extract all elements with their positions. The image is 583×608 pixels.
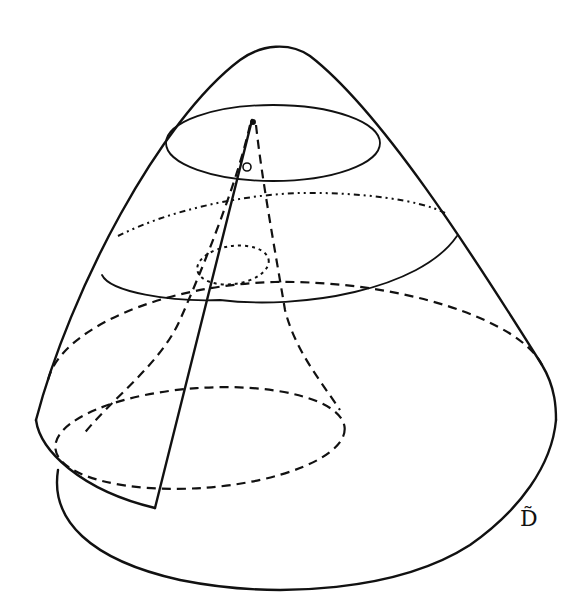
base-outline-lower bbox=[57, 420, 556, 590]
top-cross-section bbox=[166, 105, 380, 181]
lower-cross-section bbox=[48, 282, 542, 380]
base-outline bbox=[36, 420, 155, 508]
middle-cross-section-front bbox=[102, 236, 457, 302]
outer-surface bbox=[36, 47, 556, 420]
cut-sheet bbox=[155, 120, 252, 508]
apex-point bbox=[250, 119, 256, 125]
surface-label: D̃ bbox=[520, 508, 538, 530]
inner-funnel-right bbox=[256, 125, 340, 410]
inner-funnel-left bbox=[83, 125, 250, 435]
inner-base-ellipse bbox=[52, 378, 348, 498]
cone-diagram bbox=[0, 0, 583, 608]
upper-back-cross-section bbox=[118, 193, 445, 236]
apex-knot bbox=[243, 163, 251, 171]
